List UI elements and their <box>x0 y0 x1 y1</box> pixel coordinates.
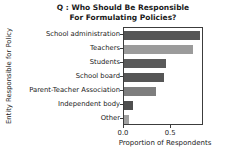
x-axis-label: Proportion of Respondents <box>119 139 212 148</box>
y-tick-label: Other <box>101 114 120 122</box>
y-tick-label: Teachers <box>90 44 120 52</box>
y-tick-mark <box>120 118 123 119</box>
bar-school-board <box>124 73 164 82</box>
y-tick-mark <box>120 104 123 105</box>
x-tick-label: 0.0 <box>118 129 129 137</box>
plot-area <box>123 27 203 125</box>
x-tick-label: 0.5 <box>165 129 176 137</box>
y-tick-mark <box>120 48 123 49</box>
y-tick-mark <box>120 34 123 35</box>
bar-other <box>124 115 129 124</box>
y-tick-label: Independent body <box>58 100 120 108</box>
x-tick-mark <box>170 125 171 128</box>
y-tick-mark <box>120 76 123 77</box>
y-tick-mark <box>120 62 123 63</box>
chart-figure: Q : Who Should Be Responsible For Formul… <box>0 0 226 159</box>
y-tick-mark <box>120 90 123 91</box>
bar-students <box>124 59 166 68</box>
y-tick-label: School administration <box>46 30 120 38</box>
chart-title-line2: For Formulating Policies? <box>57 13 189 23</box>
bar-school-administration <box>124 31 200 40</box>
bar-parent-teacher-association <box>124 87 156 96</box>
x-tick-mark <box>123 125 124 128</box>
chart-title: Q : Who Should Be Responsible For Formul… <box>57 3 189 23</box>
y-tick-label: School board <box>76 72 120 80</box>
y-axis-label: Entity Responsible for Policy <box>5 28 13 124</box>
y-tick-label: Parent-Teacher Association <box>29 86 120 94</box>
bar-independent-body <box>124 101 133 110</box>
bar-teachers <box>124 45 193 54</box>
y-tick-label: Students <box>90 58 120 66</box>
chart-title-line1: Q : Who Should Be Responsible <box>57 3 189 13</box>
